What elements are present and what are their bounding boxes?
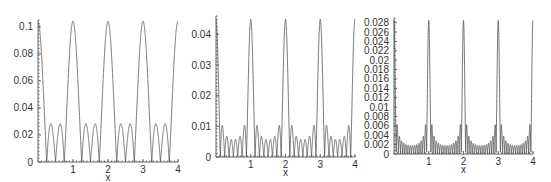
y-tick-label: 0.016 [364, 73, 389, 84]
chart-panel-middle: 00.010.020.030.041234x [192, 16, 359, 178]
y-tick-label: 0.01 [192, 121, 212, 132]
data-curve [394, 20, 533, 154]
y-tick-label: 0.006 [364, 120, 389, 131]
x-axis-label: x [283, 167, 288, 178]
data-curve [216, 19, 355, 157]
chart-panel-right: 00.0020.0040.0060.0080.010.0120.0140.016… [364, 17, 536, 175]
y-tick-label: 0.026 [364, 27, 389, 38]
chart-panel-left: 00.020.040.060.080.11234x [14, 20, 182, 182]
x-axis-label: x [461, 164, 466, 175]
x-tick-label: 4 [530, 156, 536, 167]
x-axis-label: x [106, 172, 111, 182]
y-tick-label: 0.024 [364, 36, 389, 47]
y-tick-label: 0.004 [364, 130, 389, 141]
x-tick-label: 4 [352, 159, 358, 170]
y-tick-label: 0 [383, 149, 389, 160]
y-tick-label: 0.04 [14, 102, 34, 113]
y-tick-label: 0 [205, 152, 211, 163]
x-tick-label: 1 [248, 159, 254, 170]
y-tick-label: 0.002 [364, 139, 389, 150]
y-tick-label: 0.02 [192, 90, 212, 101]
x-tick-label: 3 [140, 164, 146, 175]
y-tick-label: 0.008 [364, 111, 389, 122]
y-tick-label: 0.1 [19, 21, 33, 32]
y-tick-label: 0.03 [192, 60, 212, 71]
y-tick-label: 0.08 [14, 48, 34, 59]
x-tick-label: 4 [175, 164, 181, 175]
y-tick-label: 0.012 [364, 92, 389, 103]
y-tick-label: 0.04 [192, 29, 212, 40]
x-tick-label: 1 [70, 164, 76, 175]
y-tick-label: 0 [27, 157, 33, 168]
x-tick-label: 3 [317, 159, 323, 170]
x-tick-label: 1 [426, 156, 432, 167]
y-tick-label: 0.018 [364, 64, 389, 75]
y-tick-label: 0.028 [364, 17, 389, 28]
data-curve [38, 21, 178, 162]
y-tick-label: 0.01 [370, 102, 390, 113]
y-tick-label: 0.02 [370, 55, 390, 66]
figure: 00.020.040.060.080.11234x 00.010.020.030… [0, 0, 551, 182]
x-tick-label: 3 [495, 156, 501, 167]
y-tick-label: 0.02 [14, 129, 34, 140]
y-tick-label: 0.06 [14, 75, 34, 86]
y-tick-label: 0.022 [364, 45, 389, 56]
y-tick-label: 0.014 [364, 83, 389, 94]
